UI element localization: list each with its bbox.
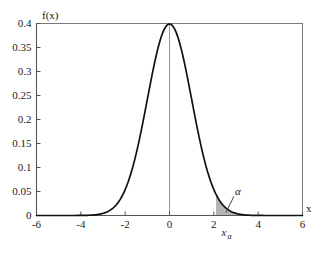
x-alpha-label: x [221, 226, 227, 238]
x-tick-label: 4 [255, 218, 261, 230]
x-tick-label: 6 [300, 218, 306, 230]
y-tick-label: 0.2 [18, 113, 32, 125]
y-tick-label: 0.4 [18, 17, 32, 29]
y-tick-label: 0.35 [12, 41, 32, 53]
x-tick-label: -2 [121, 218, 130, 230]
chart-canvas: 00.050.10.150.20.250.30.350.4 -6-4-20246… [0, 0, 331, 254]
y-tick-label: 0.15 [12, 137, 32, 149]
x-tick-label: 2 [211, 218, 217, 230]
x-tick-label: -6 [32, 218, 42, 230]
alpha-annotation-label: α [235, 185, 241, 197]
y-tick-label: 0.25 [12, 89, 32, 101]
y-axis-label: f(x) [42, 9, 59, 22]
y-tick-label: 0.05 [12, 185, 32, 197]
x-tick-label: 0 [167, 218, 173, 230]
y-tick-label: 0.1 [18, 161, 32, 173]
normal-distribution-figure: 00.050.10.150.20.250.30.350.4 -6-4-20246… [0, 0, 331, 254]
y-tick-label: 0.3 [18, 65, 32, 77]
x-axis-label: x [306, 202, 312, 214]
x-tick-label: -4 [76, 218, 86, 230]
